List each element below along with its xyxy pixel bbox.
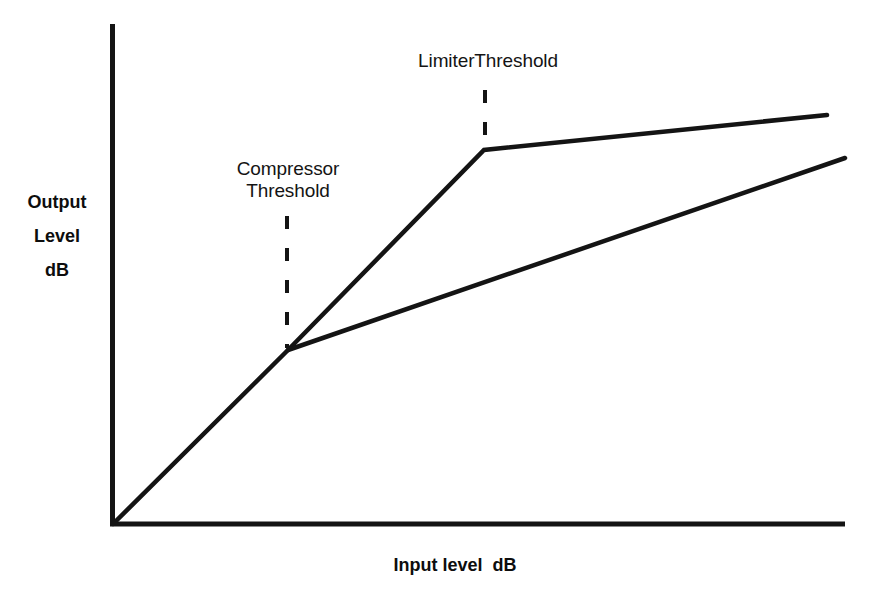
x-axis-title: Input level dB [330,548,580,582]
compressor-threshold-label: Compressor Threshold [188,158,388,202]
transfer-curve-figure [0,0,875,597]
y-axis-title: Output Level dB [10,185,104,287]
limiter-threshold-label: LimiterThreshold [388,50,588,72]
